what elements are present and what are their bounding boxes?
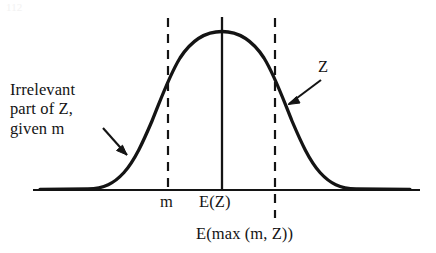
axis-label-expected-z: E(Z) (199, 192, 231, 211)
density-curve (40, 32, 410, 190)
curve-label-z: Z (318, 57, 328, 76)
axis-label-expected-max: E(max (m, Z)) (196, 224, 293, 243)
irrelevant-part-annotation: Irrelevant part of Z, given m (10, 80, 75, 138)
irrelevant-part-arrow (103, 128, 127, 155)
bell-curve-figure: 112 Irrelevant part of Z, given m Z m E(… (0, 0, 436, 253)
axis-label-m: m (160, 192, 173, 211)
curve-label-arrow (288, 80, 321, 105)
